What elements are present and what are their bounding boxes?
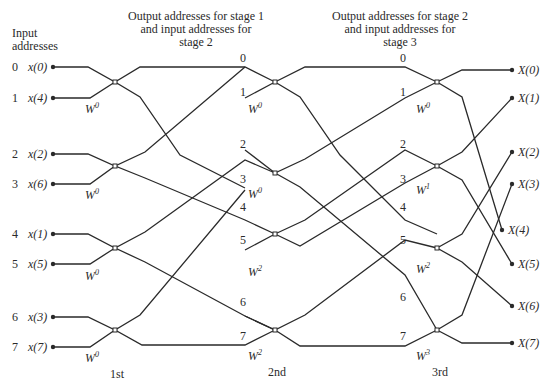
input-address: 5 [12,257,18,271]
output-label: X(4) [507,223,529,237]
twiddle-factor: W0 [85,101,99,116]
stage-labels: 1st 2nd 3rd [110,365,448,381]
input-labels: 0 x(0) 1 x(4) 2 x(2) 3 x(6) 4 x(1) 5 x(5… [12,60,47,354]
stage1-address: 6 [240,295,246,309]
stage1-header: Output addresses for stage 1 and input a… [128,9,264,49]
output-label: X(1) [517,91,539,105]
input-header-line2: addresses [12,39,58,53]
outputs: X(0) X(1) X(2) X(3) X(4) X(5) X(6) X(7) [500,63,540,350]
stage1-address: 0 [240,51,246,65]
stage-label-1st: 1st [110,367,125,381]
stage2-address: 5 [400,233,406,247]
input-address: 3 [12,177,18,191]
stage1-address: 3 [240,172,246,186]
output-label: X(5) [517,257,539,271]
input-label: x(7) [27,340,47,354]
input-address: 7 [12,340,18,354]
input-label: x(6) [27,177,47,191]
input-label: x(5) [27,257,47,271]
output-label: X(2) [517,145,539,159]
input-header-line1: Input [12,26,38,40]
stage2-address: 6 [400,290,406,304]
output-label: X(7) [517,336,539,350]
twiddle-factor: W0 [248,186,262,201]
input-label: x(1) [27,227,47,241]
input-label: x(3) [27,310,47,324]
input-address: 4 [12,227,18,241]
output-label: X(3) [517,177,539,191]
twiddle-factor: W3 [416,348,430,363]
stage2-wires [245,67,437,346]
input-dots [51,65,55,349]
twiddle-factor: W0 [85,350,99,365]
stage2-address: 2 [400,137,406,151]
stage1-header-line3: stage 2 [179,35,213,49]
stage-label-2nd: 2nd [268,365,286,379]
stage1-header-line2: and input addresses for [141,22,252,36]
stage2-header: Output addresses for stage 2 and input a… [332,9,468,49]
output-label: X(0) [517,63,539,77]
stage1-address: 1 [240,85,246,99]
stage2-twiddles: W0 W0 W2 W2 [248,101,262,363]
stage1-addresses: 0 1 2 3 4 5 6 7 [240,51,246,343]
twiddle-factor: W2 [248,348,262,363]
stage2-address: 7 [400,329,406,343]
stage3-twiddles: W0 W1 W2 W3 [416,101,430,363]
input-label: x(2) [27,147,47,161]
stage2-header-line1: Output addresses for stage 2 [332,9,468,23]
twiddle-factor: W1 [416,182,430,197]
input-address: 6 [12,310,18,324]
fft-butterfly-diagram: Input addresses Output addresses for sta… [0,0,549,384]
stage1-header-line1: Output addresses for stage 1 [128,9,264,23]
stage1-address: 7 [240,329,246,343]
stage2-header-line2: and input addresses for [345,22,456,36]
stage2-addresses: 0 1 2 3 4 5 6 7 [400,51,406,343]
stage1-address: 2 [240,137,246,151]
input-label: x(0) [27,60,47,74]
stage1-twiddles: W0 W0 W0 W0 [85,101,99,365]
stage2-address: 0 [400,51,406,65]
stage2-address: 4 [400,200,406,214]
twiddle-factor: W2 [416,261,430,276]
twiddle-factor: W0 [85,187,99,202]
stage-label-3rd: 3rd [432,365,448,379]
stage1-address: 4 [240,200,246,214]
twiddle-factor: W0 [248,101,262,116]
input-address: 1 [12,91,18,105]
twiddle-factor: W2 [248,264,262,279]
stage2-header-line3: stage 3 [383,35,417,49]
twiddle-factor: W0 [416,101,430,116]
input-label: x(4) [27,91,47,105]
input-header: Input addresses [12,26,58,53]
twiddle-factor: W0 [85,268,99,283]
stage2-address: 3 [400,172,406,186]
stage2-address: 1 [400,85,406,99]
stage3-wires [437,70,512,343]
stage1-address: 5 [240,233,246,247]
output-label: X(6) [517,299,539,313]
input-address: 0 [12,60,18,74]
input-address: 2 [12,147,18,161]
